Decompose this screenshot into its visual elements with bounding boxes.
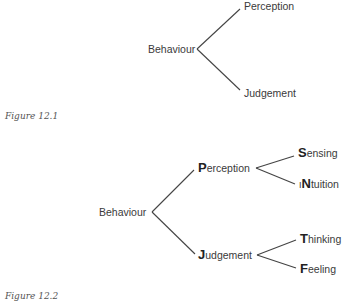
fig2-node-perception: Perception [198, 162, 250, 174]
fig2-node-feeling: Feeling [300, 263, 336, 275]
fig2-node-sensing: Sensing [298, 147, 338, 159]
figure-1-caption: Figure 12.1 [5, 111, 58, 121]
figure-2-caption: Figure 12.2 [5, 291, 58, 301]
fig2-node-intuition: INtuition [299, 178, 339, 191]
fig1-node-perception: Perception [244, 0, 294, 12]
fig2-node-judgement: Judgement [198, 249, 252, 261]
fig1-edge-judgement [197, 49, 240, 90]
fig2-node-thinking: Thinking [300, 233, 341, 245]
fig2-edge-perception [152, 170, 194, 212]
fig2-edge-thinking [257, 240, 296, 255]
fig2-edge-judgement [152, 212, 195, 254]
fig2-edge-feeling [257, 255, 296, 268]
fig2-edge-sensing [256, 156, 294, 168]
fig2-edge-intuition [256, 168, 295, 184]
fig1-node-judgement: Judgement [244, 87, 296, 99]
fig1-edge-perception [197, 9, 240, 49]
fig1-root-behaviour: Behaviour [148, 43, 195, 55]
fig2-root-behaviour: Behaviour [99, 206, 146, 218]
